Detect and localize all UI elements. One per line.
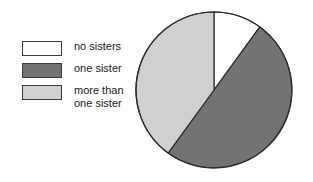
pie-svg bbox=[0, 0, 313, 182]
pie-slices bbox=[136, 12, 292, 168]
pie-chart-figure: no sisters one sister more than one sist… bbox=[0, 0, 313, 182]
pie-container bbox=[0, 0, 313, 182]
